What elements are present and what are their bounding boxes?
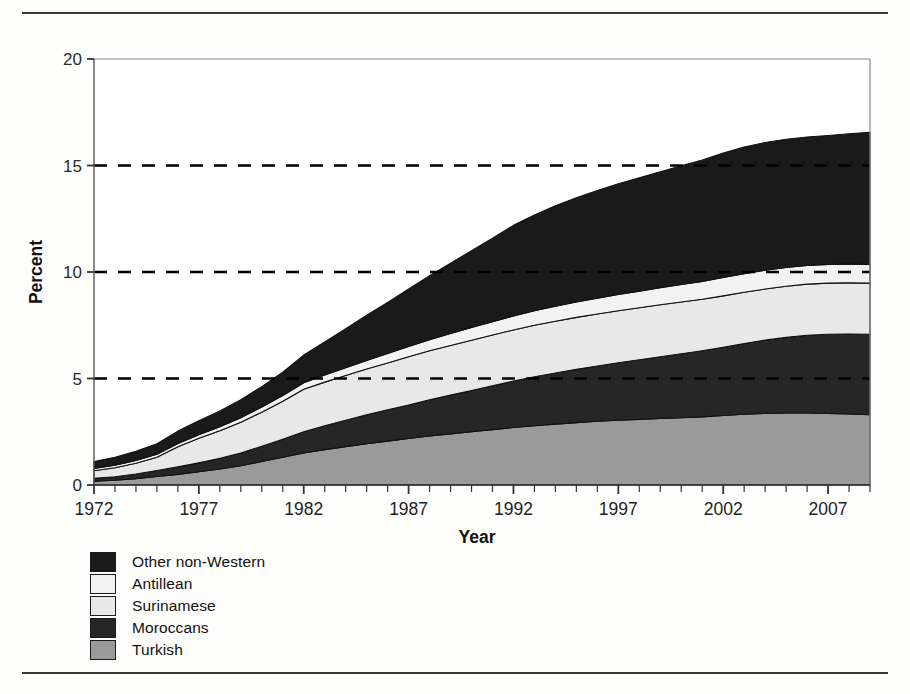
- legend-swatch-antillean: [90, 574, 116, 594]
- legend-swatch-other-non-western: [90, 552, 116, 572]
- x-tick-label-2002: 2002: [704, 499, 743, 519]
- bottom-divider-rule: [22, 672, 888, 674]
- legend-label: Surinamese: [132, 597, 216, 615]
- legend-swatch-moroccans: [90, 618, 116, 638]
- y-axis-title: Percent: [26, 240, 46, 304]
- legend-item: Surinamese: [90, 595, 420, 617]
- legend-item: Turkish: [90, 639, 420, 661]
- legend-item: Moroccans: [90, 617, 420, 639]
- y-tick-label-20: 20: [63, 50, 82, 69]
- y-tick-label-0: 0: [73, 476, 82, 495]
- stacked-area-chart: 0510152019721977198219871992199720022007…: [0, 0, 910, 560]
- y-tick-label-5: 5: [73, 370, 82, 389]
- x-tick-label-1977: 1977: [179, 499, 218, 519]
- legend-label: Antillean: [132, 575, 192, 593]
- legend-label: Other non-Western: [132, 553, 265, 571]
- x-tick-label-1992: 1992: [494, 499, 533, 519]
- legend-label: Moroccans: [132, 619, 209, 637]
- y-tick-label-10: 10: [63, 263, 82, 282]
- y-tick-label-15: 15: [63, 157, 82, 176]
- x-tick-label-2007: 2007: [809, 499, 848, 519]
- legend-swatch-surinamese: [90, 596, 116, 616]
- x-tick-label-1982: 1982: [284, 499, 323, 519]
- figure-container: 0510152019721977198219871992199720022007…: [0, 0, 910, 694]
- x-axis-title: Year: [459, 527, 496, 547]
- x-tick-label-1997: 1997: [599, 499, 638, 519]
- legend-label: Turkish: [132, 641, 183, 659]
- x-tick-label-1987: 1987: [389, 499, 428, 519]
- x-tick-label-1972: 1972: [75, 499, 114, 519]
- chart-legend: Other non-WesternAntilleanSurinameseMoro…: [90, 551, 420, 661]
- legend-item: Antillean: [90, 573, 420, 595]
- legend-item: Other non-Western: [90, 551, 420, 573]
- legend-swatch-turkish: [90, 640, 116, 660]
